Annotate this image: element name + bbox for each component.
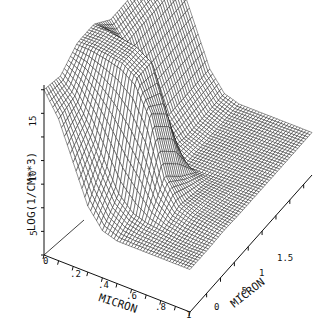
x-tick-0.2: .2 xyxy=(70,269,81,279)
y-tick-0: 0 xyxy=(214,302,219,312)
z-tick-15: 15 xyxy=(28,116,38,127)
z-tick-10: 10 xyxy=(28,171,38,182)
z-tick-5: 5 xyxy=(29,230,39,235)
x-tick-0.8: .8 xyxy=(155,302,166,312)
x-tick-0: 0 xyxy=(43,256,48,266)
x-tick-1: 1 xyxy=(186,310,191,320)
x-tick-0.4: .4 xyxy=(98,280,109,290)
z-axis-label: LOG(1/CM**3) xyxy=(25,147,38,237)
y-tick-1.5: 1.5 xyxy=(277,253,293,263)
wireframe-surface xyxy=(44,0,312,270)
surface-plot xyxy=(0,0,320,327)
